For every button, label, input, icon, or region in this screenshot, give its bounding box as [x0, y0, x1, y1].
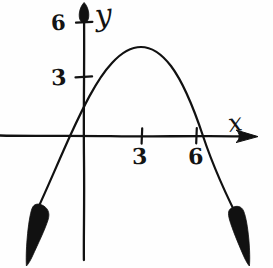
- y-axis-tick-label-3: 3: [50, 66, 66, 89]
- x-tick-mark-3: [142, 128, 143, 143]
- y-axis-name-label: y: [93, 0, 113, 31]
- x-axis-group: [0, 128, 258, 144]
- parabola-left-arrowhead-icon: [26, 204, 49, 266]
- y-tick-mark-3: [76, 76, 92, 77]
- y-tick-mark-6: [76, 22, 92, 23]
- y-axis-group: [76, 3, 93, 261]
- y-axis-arrow-up-icon: [79, 3, 89, 23]
- x-axis-tick-label-6: 6: [187, 145, 203, 168]
- parabola-right-arrowhead-icon: [229, 206, 250, 266]
- x-axis-tick-label-3: 3: [132, 145, 148, 168]
- x-tick-mark-6: [196, 128, 197, 143]
- y-axis-tick-label-6: 6: [50, 12, 66, 34]
- hand-drawn-graph-figure: 6 3 3 6 y x: [0, 0, 273, 268]
